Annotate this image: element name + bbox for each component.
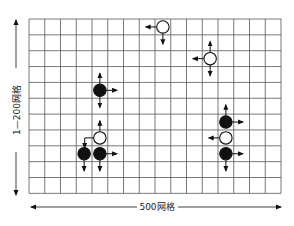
black-stone-icon xyxy=(220,148,232,160)
black-stone xyxy=(78,148,90,171)
black-stone xyxy=(220,105,243,128)
white-stone-icon xyxy=(204,52,216,64)
grid-diagram: 1—200网格 500网格 xyxy=(0,0,294,226)
black-stone-icon xyxy=(78,148,90,160)
vertical-axis: 1—200网格 xyxy=(11,20,22,195)
white-stone xyxy=(85,121,106,148)
black-stone-icon xyxy=(94,84,106,96)
white-stone-icon xyxy=(220,132,232,144)
black-stone xyxy=(94,148,117,171)
white-stone-icon xyxy=(94,132,106,144)
horizontal-axis: 500网格 xyxy=(31,201,281,212)
white-stone xyxy=(146,21,169,44)
white-stone xyxy=(209,132,232,144)
horizontal-axis-label: 500网格 xyxy=(139,201,174,212)
black-stone-icon xyxy=(94,148,106,160)
vertical-axis-label: 1—200网格 xyxy=(11,85,22,135)
grid-lines xyxy=(29,19,281,193)
black-stone xyxy=(220,148,243,171)
black-stone xyxy=(94,73,117,107)
black-stone-icon xyxy=(220,116,232,128)
white-stone xyxy=(193,41,216,75)
white-stone-icon xyxy=(157,21,169,33)
